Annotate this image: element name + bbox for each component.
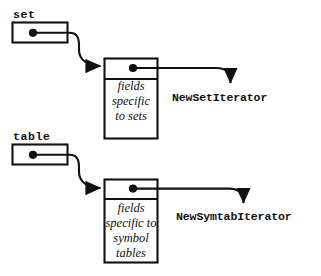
symtab-object-fields-text: fields specific to symbol tables — [101, 201, 161, 261]
pointer-diagram: set table NewSetIterator NewSymtabIterat… — [0, 0, 321, 276]
set-fields-line-1: fields — [104, 79, 158, 94]
symtab-fields-line-1: fields — [101, 201, 161, 216]
symtab-fields-line-3: symbol — [101, 231, 161, 246]
set-variable-label: set — [13, 9, 36, 21]
set-fields-line-2: specific — [104, 94, 158, 109]
new-set-iterator-label: NewSetIterator — [172, 92, 267, 104]
symtab-fields-line-2: specific to — [101, 216, 161, 231]
symtab-fields-line-4: tables — [101, 246, 161, 261]
set-fields-line-3: to sets — [104, 109, 158, 124]
table-variable-label: table — [13, 131, 51, 143]
set-object-fields-text: fields specific to sets — [104, 79, 158, 124]
new-symtab-iterator-label: NewSymtabIterator — [176, 211, 292, 223]
